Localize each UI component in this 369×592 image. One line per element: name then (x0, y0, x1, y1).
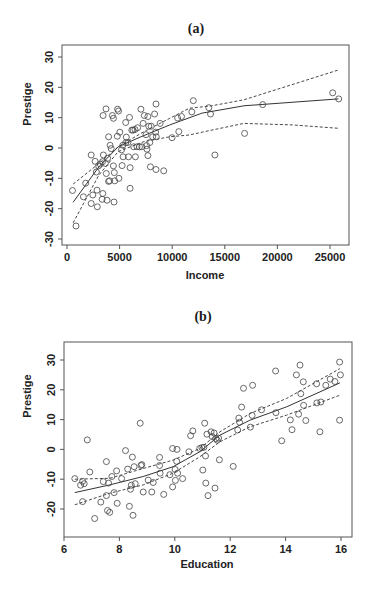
data-point (100, 191, 106, 197)
data-point (116, 108, 122, 114)
data-point (145, 114, 151, 120)
data-point (206, 105, 212, 111)
y-tick-label: 30 (43, 51, 55, 63)
data-point (152, 111, 158, 117)
data-point (130, 512, 136, 518)
data-point (98, 499, 104, 505)
x-tick-label: 8 (116, 543, 122, 555)
data-point (127, 114, 133, 120)
data-point (337, 359, 343, 365)
data-point (127, 185, 133, 191)
data-point (180, 476, 186, 482)
y-tick-label: 0 (45, 446, 57, 452)
data-point (249, 412, 255, 418)
x-tick-label: 6 (61, 543, 67, 555)
data-point (179, 114, 185, 120)
data-point (157, 463, 163, 469)
data-point (132, 154, 138, 160)
data-point (127, 165, 133, 171)
x-tick-label: 10000 (157, 251, 188, 263)
y-tick-label: 10 (45, 413, 57, 425)
data-point (153, 167, 159, 173)
data-point (161, 491, 167, 497)
data-point (250, 382, 256, 388)
data-point (161, 168, 167, 174)
x-tick-label: 5000 (107, 251, 131, 263)
data-point (108, 146, 114, 152)
data-point (216, 457, 222, 463)
data-point (111, 199, 117, 205)
data-point (128, 486, 134, 492)
data-point (212, 485, 218, 491)
data-point (103, 459, 109, 465)
plot-frame (62, 45, 349, 245)
data-point (237, 419, 243, 425)
data-point (301, 402, 307, 408)
data-point (128, 482, 134, 488)
data-point (137, 420, 143, 426)
data-point (330, 90, 336, 96)
data-point (150, 480, 156, 486)
data-point (103, 106, 109, 112)
data-point (200, 467, 206, 473)
data-point (190, 428, 196, 434)
data-point (109, 474, 115, 480)
data-point (186, 449, 192, 455)
data-point (84, 437, 90, 443)
data-point (73, 223, 79, 229)
data-point (174, 446, 180, 452)
data-point (174, 458, 180, 464)
data-point (88, 152, 94, 158)
data-point (202, 420, 208, 426)
data-point (144, 146, 150, 152)
data-point (189, 109, 195, 115)
data-point (157, 454, 163, 460)
x-tick-label: 14 (279, 543, 292, 555)
x-tick-label: 12 (224, 543, 236, 555)
data-point (119, 163, 125, 169)
data-point (169, 135, 175, 141)
data-point (119, 476, 125, 482)
data-point (90, 192, 96, 198)
y-tick-label: -20 (45, 501, 57, 517)
x-tick-label: 20000 (262, 251, 293, 263)
y-tick-label: -30 (43, 231, 55, 247)
data-point (297, 362, 303, 368)
data-point (80, 194, 86, 200)
data-point (167, 472, 173, 478)
data-point (241, 385, 247, 391)
data-point (114, 468, 120, 474)
data-point (106, 134, 112, 140)
data-point (129, 454, 135, 460)
data-point (172, 477, 178, 483)
data-point (203, 453, 209, 459)
data-point (123, 120, 129, 126)
data-point (149, 489, 155, 495)
x-tick-label: 16 (335, 543, 347, 555)
data-point (114, 500, 120, 506)
data-point (100, 152, 106, 158)
data-point (94, 187, 100, 193)
data-point (70, 188, 76, 194)
y-tick-label: -10 (43, 170, 55, 186)
data-point (107, 142, 113, 148)
data-point (273, 368, 279, 374)
plot-area-a: 0500010000150002000025000-30-20-10010203… (0, 0, 369, 296)
data-point (131, 464, 137, 470)
data-point (87, 469, 93, 475)
data-point (317, 429, 323, 435)
y-tick-label: -10 (45, 471, 57, 487)
data-point (132, 481, 138, 487)
data-point (287, 417, 293, 423)
data-point (123, 448, 129, 454)
x-tick-label: 0 (64, 251, 70, 263)
y-tick-label: 30 (45, 354, 57, 366)
data-point (153, 134, 159, 140)
data-point (239, 404, 245, 410)
data-point (125, 466, 131, 472)
data-point (300, 379, 306, 385)
data-point (175, 115, 181, 121)
y-tick-label: 10 (43, 112, 55, 124)
x-tick-label: 15000 (210, 251, 241, 263)
data-point (337, 417, 343, 423)
